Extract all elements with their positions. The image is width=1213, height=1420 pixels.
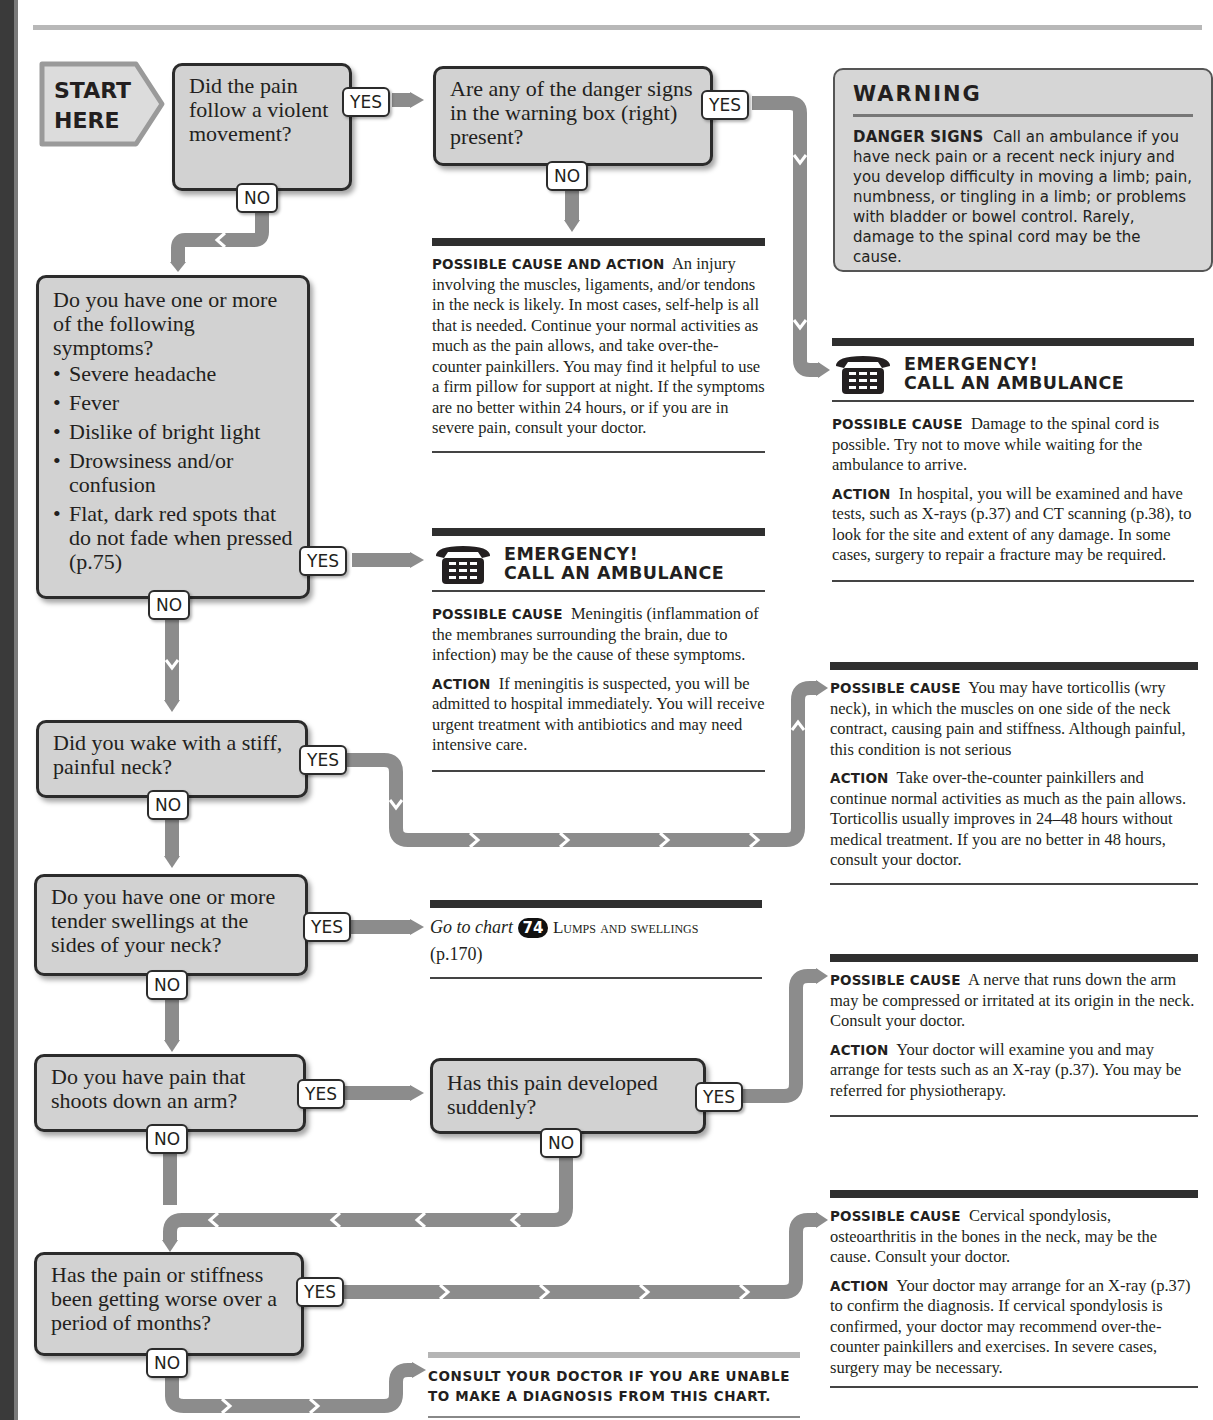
start-here-marker: START HERE xyxy=(40,62,158,150)
question-worsening-months[interactable]: Has the pain or stiffness been getting w… xyxy=(34,1252,304,1356)
yes-button-q8[interactable]: YES xyxy=(296,1277,344,1307)
symptom-item: Drowsiness and/or confusion xyxy=(53,449,293,497)
outcome-text: An injury involving the muscles, ligamen… xyxy=(432,254,765,437)
no-button-q6[interactable]: NO xyxy=(146,1124,188,1154)
question-text: Has this pain developed suddenly? xyxy=(447,1070,658,1119)
no-button-q7[interactable]: NO xyxy=(540,1128,582,1158)
symptom-item: Dislike of bright light xyxy=(53,420,293,444)
cause-heading: Possible cause xyxy=(830,972,961,988)
warning-title: WARNING xyxy=(853,82,1193,106)
outcome-rule-bottom xyxy=(830,1386,1198,1388)
outcome-consult-doctor: Consult your doctor if you are unable to… xyxy=(428,1352,800,1418)
emergency-header: EMERGENCY! CALL AN AMBULANCE xyxy=(832,350,1194,398)
no-button-q3[interactable]: NO xyxy=(148,590,190,620)
no-button-q8[interactable]: NO xyxy=(146,1348,188,1378)
question-violent-movement[interactable]: Did the pain follow a violent movement? xyxy=(172,63,352,191)
yes-button-q7[interactable]: YES xyxy=(695,1082,743,1112)
yes-button-q3[interactable]: YES xyxy=(299,546,347,576)
outcome-rule-bottom xyxy=(432,770,765,772)
start-line-2: HERE xyxy=(54,106,131,136)
question-stiff-neck[interactable]: Did you wake with a stiff, painful neck? xyxy=(36,720,308,798)
outcome-rule-top xyxy=(432,528,765,536)
emergency-title: EMERGENCY! CALL AN AMBULANCE xyxy=(504,545,724,583)
outcome-nerve-compression: Possible cause A nerve that runs down th… xyxy=(830,954,1198,1117)
no-button-q1[interactable]: NO xyxy=(236,183,278,213)
outcome-injury: Possible cause and action An injury invo… xyxy=(432,238,765,453)
outcome-rule-bottom xyxy=(832,580,1194,582)
question-tender-swellings[interactable]: Do you have one or more tender swellings… xyxy=(34,874,308,976)
question-text: Do you have one or more of the following… xyxy=(53,288,293,360)
emergency-header: EMERGENCY! CALL AN AMBULANCE xyxy=(432,540,765,588)
outcome-rule-bottom xyxy=(830,1115,1198,1117)
question-text: Do you have one or more tender swellings… xyxy=(51,884,275,957)
yes-button-q6[interactable]: YES xyxy=(297,1079,345,1109)
goto-chart-prefix: Go to chart xyxy=(430,917,513,937)
no-button-q5[interactable]: NO xyxy=(146,970,188,1000)
chart-number-badge: 74 xyxy=(518,918,549,938)
cause-heading: Possible cause xyxy=(830,680,961,696)
symptom-list: Severe headache Fever Dislike of bright … xyxy=(53,362,293,574)
emergency-line-1: EMERGENCY! xyxy=(504,545,724,564)
chart-title-link[interactable]: Lumps and swellings xyxy=(553,918,699,937)
outcome-rule-bottom xyxy=(830,883,1198,885)
outcome-lumps-link[interactable]: Go to chart 74 Lumps and swellings (p.17… xyxy=(430,900,762,979)
no-button-q4[interactable]: NO xyxy=(147,790,189,820)
start-line-1: START xyxy=(54,76,131,106)
warning-box: WARNING Danger signs Call an ambulance i… xyxy=(833,68,1213,272)
action-heading: Action xyxy=(432,676,491,692)
warning-text: Call an ambulance if you have neck pain … xyxy=(853,128,1192,266)
outcome-heading: Possible cause and action xyxy=(432,256,665,272)
outcome-rule-bottom xyxy=(428,1416,800,1418)
page-reference: (p.170) xyxy=(430,941,762,967)
consult-text: Consult your doctor if you are unable to… xyxy=(428,1366,800,1406)
outcome-torticollis: Possible cause You may have torticollis … xyxy=(830,662,1198,885)
question-danger-signs[interactable]: Are any of the danger signs in the warni… xyxy=(433,66,713,166)
outcome-meningitis-emergency: EMERGENCY! CALL AN AMBULANCE Possible ca… xyxy=(432,528,765,772)
emergency-title: EMERGENCY! CALL AN AMBULANCE xyxy=(904,355,1124,393)
cause-heading: Possible cause xyxy=(832,416,963,432)
emergency-line-1: EMERGENCY! xyxy=(904,355,1124,374)
outcome-rule-top xyxy=(832,338,1194,346)
outcome-rule-top xyxy=(432,238,765,246)
start-label: START HERE xyxy=(54,76,131,136)
question-text: Are any of the danger signs in the warni… xyxy=(450,76,693,149)
page-spine-edge xyxy=(0,0,14,1420)
action-heading: Action xyxy=(832,486,891,502)
yes-button-q5[interactable]: YES xyxy=(303,912,351,942)
question-text: Has the pain or stiffness been getting w… xyxy=(51,1262,277,1335)
question-sudden-pain[interactable]: Has this pain developed suddenly? xyxy=(430,1058,706,1134)
question-text: Did the pain follow a violent movement? xyxy=(189,73,328,146)
cause-heading: Possible cause xyxy=(432,606,563,622)
emergency-line-2: CALL AN AMBULANCE xyxy=(504,564,724,583)
warning-heading: Danger signs xyxy=(853,128,983,146)
question-arm-pain[interactable]: Do you have pain that shoots down an arm… xyxy=(34,1054,306,1132)
emergency-line-2: CALL AN AMBULANCE xyxy=(904,374,1124,393)
action-heading: Action xyxy=(830,770,889,786)
top-rule xyxy=(33,25,1202,30)
outcome-rule-top xyxy=(830,954,1198,962)
question-text: Do you have pain that shoots down an arm… xyxy=(51,1064,245,1113)
outcome-rule-top xyxy=(430,900,762,908)
warning-body: Danger signs Call an ambulance if you ha… xyxy=(853,127,1193,267)
outcome-rule-bottom xyxy=(432,451,765,453)
emergency-divider xyxy=(432,590,765,592)
outcome-rule-top xyxy=(428,1352,800,1358)
outcome-rule-top xyxy=(830,1190,1198,1198)
warning-divider xyxy=(853,114,1193,117)
symptom-item: Severe headache xyxy=(53,362,293,386)
page-spine-shadow xyxy=(14,0,18,1420)
emergency-divider xyxy=(832,400,1194,402)
outcome-spinal-emergency: EMERGENCY! CALL AN AMBULANCE Possible ca… xyxy=(832,338,1194,582)
no-button-q2[interactable]: NO xyxy=(546,161,588,191)
question-meningitis-symptoms[interactable]: Do you have one or more of the following… xyxy=(36,275,310,599)
action-heading: Action xyxy=(830,1042,889,1058)
yes-button-q4[interactable]: YES xyxy=(299,745,347,775)
outcome-cervical-spondylosis: Possible cause Cervical spondylosis, ost… xyxy=(830,1190,1198,1388)
question-text: Did you wake with a stiff, painful neck? xyxy=(53,730,282,779)
yes-button-q2[interactable]: YES xyxy=(701,90,749,120)
yes-button-q1[interactable]: YES xyxy=(342,87,390,117)
telephone-icon xyxy=(432,542,494,586)
action-heading: Action xyxy=(830,1278,889,1294)
cause-heading: Possible cause xyxy=(830,1208,961,1224)
outcome-rule-top xyxy=(830,662,1198,670)
